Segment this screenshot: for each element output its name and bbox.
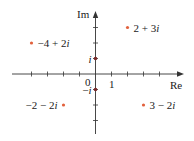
unit-label: 1 xyxy=(109,78,115,90)
point-marker xyxy=(30,41,33,44)
complex-plane-diagram: Im Re 0 1 2 + 3i−4 + 2ii−i−2 − 2i3 − 2i xyxy=(0,0,194,141)
point-label: −2 − 2i xyxy=(26,99,58,111)
imaginary-axis-arrow-icon xyxy=(93,11,98,18)
imaginary-axis-label: Im xyxy=(77,8,90,20)
point-label: −i xyxy=(82,84,91,96)
point-marker xyxy=(94,88,98,92)
points: 2 + 3i−4 + 2ii−i−2 − 2i3 − 2i xyxy=(26,22,176,112)
real-axis-arrow-icon xyxy=(177,71,184,76)
point-label: −4 + 2i xyxy=(38,37,70,49)
point-label: 2 + 3i xyxy=(134,22,160,34)
point-marker xyxy=(126,26,129,29)
point-marker xyxy=(142,103,145,106)
real-axis-label: Re xyxy=(170,79,182,91)
point-label: i xyxy=(88,53,91,65)
point-marker xyxy=(62,103,65,106)
point-label: 3 − 2i xyxy=(150,99,176,111)
point-marker xyxy=(94,57,98,61)
